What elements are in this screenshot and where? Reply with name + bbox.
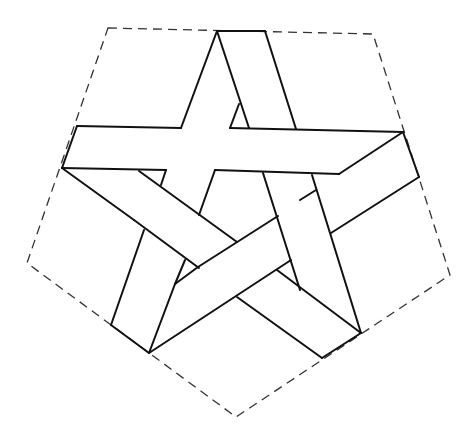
dashed-pentagon-outline [27, 28, 450, 417]
strip-top-to-bottom-left [111, 31, 239, 353]
strip-left-to-bottom-right [62, 168, 361, 358]
strip-top-to-bottom-right [217, 31, 361, 333]
woven-star-diagram [0, 0, 475, 436]
strip-left-to-right [62, 126, 403, 174]
